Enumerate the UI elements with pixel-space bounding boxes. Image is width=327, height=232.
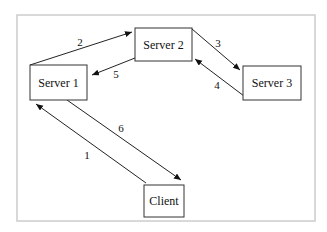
edge-step-label: 4 [214, 79, 220, 91]
network-diagram: 123456 Server 1Server 2Server 3Client [0, 0, 327, 232]
node-server2: Server 2 [135, 28, 192, 61]
edge-step-label: 3 [215, 37, 221, 49]
node-label: Server 1 [38, 76, 78, 90]
node-server1: Server 1 [30, 65, 87, 100]
node-server3: Server 3 [243, 66, 301, 100]
edge-step-label: 1 [84, 149, 90, 161]
node-label: Client [149, 194, 179, 208]
node-client: Client [144, 185, 184, 217]
edge-step-label: 5 [113, 68, 119, 80]
node-label: Server 3 [252, 76, 292, 90]
edge-step-label: 2 [77, 36, 83, 48]
node-label: Server 2 [143, 38, 183, 52]
edge-step-label: 6 [118, 122, 124, 134]
